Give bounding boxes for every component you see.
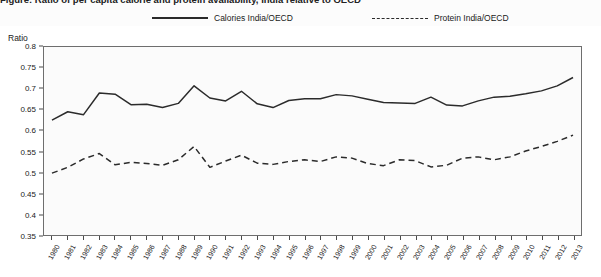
x-tick-mark — [209, 236, 210, 240]
legend-label-calories: Calories India/OECD — [214, 13, 293, 23]
x-tick-label: 1998 — [331, 243, 347, 261]
x-tick-mark — [114, 236, 115, 240]
x-tick-mark — [447, 236, 448, 240]
legend-label-protein: Protein India/OECD — [434, 13, 509, 23]
x-tick-mark — [416, 236, 417, 240]
x-tick-mark — [289, 236, 290, 240]
x-tick-mark — [352, 236, 353, 240]
plot-area — [43, 46, 582, 236]
x-tick-label: 2000 — [363, 243, 379, 261]
x-tick-mark — [542, 236, 543, 240]
x-tick-mark — [99, 236, 100, 240]
y-tick-label: 0.35 — [20, 232, 36, 241]
x-tick-label: 2001 — [379, 243, 395, 261]
x-tick-label: 1995 — [284, 243, 300, 261]
x-tick-mark — [511, 236, 512, 240]
x-tick-label: 2013 — [569, 243, 585, 261]
x-tick-label: 1992 — [236, 243, 252, 261]
x-tick-label: 1993 — [252, 243, 268, 261]
x-tick-label: 2010 — [521, 243, 537, 261]
y-tick-label: 0.5 — [25, 168, 36, 177]
x-tick-mark — [526, 236, 527, 240]
x-tick-mark — [479, 236, 480, 240]
x-axis: 1980198119821983198419851986198719881989… — [43, 236, 582, 277]
x-tick-label: 1987 — [157, 243, 173, 261]
x-tick-label: 2008 — [490, 243, 506, 261]
x-tick-label: 2005 — [442, 243, 458, 261]
x-tick-mark — [320, 236, 321, 240]
x-tick-label: 1985 — [125, 243, 141, 261]
x-tick-mark — [241, 236, 242, 240]
x-tick-mark — [225, 236, 226, 240]
y-tick-label: 0.45 — [20, 189, 36, 198]
series-line-protein — [52, 135, 573, 173]
x-tick-mark — [336, 236, 337, 240]
x-tick-label: 1990 — [204, 243, 220, 261]
x-tick-label: 2011 — [538, 243, 554, 261]
x-tick-label: 1991 — [220, 243, 236, 261]
figure-title: Figure: Ratio of per capita calorie and … — [0, 0, 601, 6]
x-tick-label: 2003 — [411, 243, 427, 261]
x-tick-label: 2009 — [506, 243, 522, 261]
y-tick-label: 0.55 — [20, 147, 36, 156]
x-tick-mark — [51, 236, 52, 240]
x-tick-label: 1989 — [189, 243, 205, 261]
solid-line-swatch-icon — [152, 13, 208, 23]
x-tick-label: 1980 — [46, 243, 62, 261]
y-axis: 0.80.750.70.650.60.550.50.450.40.35 — [0, 46, 43, 236]
x-tick-mark — [67, 236, 68, 240]
y-tick-label: 0.8 — [25, 42, 36, 51]
x-tick-label: 1982 — [78, 243, 94, 261]
y-tick-label: 0.4 — [25, 210, 36, 219]
x-tick-mark — [431, 236, 432, 240]
legend-item-protein: Protein India/OECD — [372, 10, 509, 26]
x-tick-label: 2004 — [426, 243, 442, 261]
x-tick-label: 1981 — [62, 243, 78, 261]
x-tick-label: 1983 — [94, 243, 110, 261]
x-tick-mark — [83, 236, 84, 240]
x-tick-mark — [162, 236, 163, 240]
x-tick-mark — [384, 236, 385, 240]
x-tick-mark — [257, 236, 258, 240]
x-tick-mark — [194, 236, 195, 240]
x-tick-label: 1999 — [347, 243, 363, 261]
x-tick-label: 2002 — [395, 243, 411, 261]
x-tick-mark — [368, 236, 369, 240]
x-tick-label: 2012 — [553, 243, 569, 261]
y-tick-label: 0.75 — [20, 63, 36, 72]
x-tick-mark — [178, 236, 179, 240]
x-tick-mark — [273, 236, 274, 240]
x-tick-label: 1986 — [141, 243, 157, 261]
x-tick-mark — [558, 236, 559, 240]
x-tick-label: 2007 — [474, 243, 490, 261]
chart-legend: Calories India/OECD Protein India/OECD — [0, 10, 601, 26]
x-tick-label: 1996 — [300, 243, 316, 261]
dashed-line-swatch-icon — [372, 13, 428, 23]
chart-figure: Figure: Ratio of per capita calorie and … — [0, 0, 601, 277]
x-tick-mark — [463, 236, 464, 240]
legend-item-calories: Calories India/OECD — [152, 10, 293, 26]
x-tick-label: 1988 — [173, 243, 189, 261]
x-tick-mark — [130, 236, 131, 240]
x-tick-label: 1994 — [268, 243, 284, 261]
y-tick-label: 0.65 — [20, 105, 36, 114]
x-tick-label: 1997 — [315, 243, 331, 261]
x-tick-label: 2006 — [458, 243, 474, 261]
x-tick-mark — [400, 236, 401, 240]
y-tick-label: 0.6 — [25, 126, 36, 135]
x-tick-label: 1984 — [109, 243, 125, 261]
x-tick-mark — [574, 236, 575, 240]
x-tick-mark — [495, 236, 496, 240]
series-line-calories — [52, 77, 573, 120]
x-tick-mark — [146, 236, 147, 240]
x-tick-mark — [305, 236, 306, 240]
y-tick-label: 0.7 — [25, 84, 36, 93]
series-lines — [44, 47, 581, 235]
